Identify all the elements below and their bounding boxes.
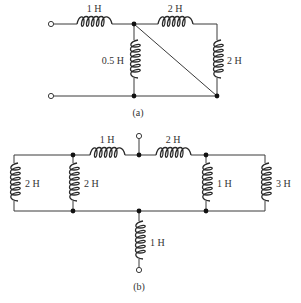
node [71, 153, 76, 158]
label-b-2h-far-left: 2 H [25, 178, 40, 189]
node [204, 209, 209, 214]
inductor-b-2h-far-left: 2 H [11, 163, 40, 201]
diagram-b: 2 H 2 H 1 H 2 H 1 H 3 H 1 H [11, 133, 291, 293]
label-a-0-5h: 0.5 H [102, 55, 124, 66]
inductor-b-2h-top: 2 H [156, 134, 191, 157]
label-b-1h-right: 1 H [217, 178, 232, 189]
inductor-a-2h-top: 2 H [158, 3, 193, 26]
label-a-2h-top: 2 H [168, 3, 183, 14]
node [132, 94, 137, 99]
caption-a: (a) [132, 107, 143, 119]
inductor-a-1h: 1 H [77, 3, 112, 26]
label-b-2h-left: 2 H [84, 178, 99, 189]
inductor-b-1h-top: 1 H [90, 134, 125, 157]
node [71, 209, 76, 214]
terminal-bottom [136, 267, 141, 272]
inductor-b-2h-left: 2 H [70, 163, 99, 201]
terminal-bottom [48, 93, 53, 98]
diagram-a: 1 H 2 H 0.5 H 2 H (a) [48, 3, 241, 119]
terminal-top [136, 133, 141, 138]
inductor-a-2h-right: 2 H [214, 40, 242, 78]
label-b-1h-bottom: 1 H [150, 237, 165, 248]
inductor-b-3h: 3 H [262, 163, 291, 201]
node [204, 153, 209, 158]
node [137, 209, 142, 214]
node [215, 94, 220, 99]
node [137, 153, 142, 158]
inductor-b-1h-bottom: 1 H [136, 221, 165, 259]
label-b-3h: 3 H [276, 178, 291, 189]
label-a-1h: 1 H [87, 3, 102, 14]
label-b-2h-top: 2 H [166, 134, 181, 145]
label-a-2h-right: 2 H [227, 55, 242, 66]
inductor-b-1h-right: 1 H [203, 163, 232, 201]
terminal-top [48, 21, 53, 26]
label-b-1h-top: 1 H [100, 134, 115, 145]
diagonal-wire [134, 24, 217, 96]
inductor-a-0-5h: 0.5 H [102, 40, 140, 78]
circuit-diagrams: 1 H 2 H 0.5 H 2 H (a) [0, 0, 301, 303]
node [132, 22, 137, 27]
caption-b: (b) [133, 281, 145, 293]
